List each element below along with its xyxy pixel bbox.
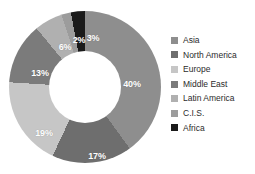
donut-chart: 40%17%19%13%6%2%3%: [2, 8, 164, 170]
legend-swatch-icon: [171, 81, 178, 88]
slice-label: 2%: [73, 35, 86, 45]
legend-item-label: C.I.S.: [183, 109, 204, 118]
legend-item-label: Europe: [183, 65, 210, 74]
legend-item-label: Africa: [183, 124, 205, 133]
donut-center-hole: [49, 51, 121, 123]
legend-item[interactable]: Middle East: [171, 77, 255, 92]
legend-swatch-icon: [171, 110, 178, 117]
legend-swatch-icon: [171, 95, 178, 102]
legend-item[interactable]: Europe: [171, 62, 255, 77]
legend-item-label: Middle East: [183, 80, 227, 89]
donut-graphic: 40%17%19%13%6%2%3%: [9, 11, 161, 163]
chart-legend: AsiaNorth AmericaEuropeMiddle EastLatin …: [171, 33, 255, 135]
legend-item[interactable]: Latin America: [171, 91, 255, 106]
legend-item-label: Latin America: [183, 94, 235, 103]
slice-label: 19%: [35, 128, 52, 138]
slice-label: 13%: [31, 68, 48, 78]
legend-item[interactable]: Africa: [171, 121, 255, 136]
legend-item-label: Asia: [183, 36, 200, 45]
legend-swatch-icon: [171, 37, 178, 44]
legend-item[interactable]: C.I.S.: [171, 106, 255, 121]
legend-item[interactable]: Asia: [171, 33, 255, 48]
chart-page: 40%17%19%13%6%2%3% AsiaNorth AmericaEuro…: [0, 0, 255, 174]
clipped-chart-title: [42, 0, 192, 2]
legend-swatch-icon: [171, 66, 178, 73]
legend-item[interactable]: North America: [171, 48, 255, 63]
slice-label: 17%: [88, 151, 105, 161]
legend-swatch-icon: [171, 51, 178, 58]
legend-item-label: North America: [183, 51, 237, 60]
slice-label: 40%: [123, 79, 140, 89]
slice-label: 3%: [87, 33, 100, 43]
legend-swatch-icon: [171, 124, 178, 131]
slice-label: 6%: [59, 42, 72, 52]
